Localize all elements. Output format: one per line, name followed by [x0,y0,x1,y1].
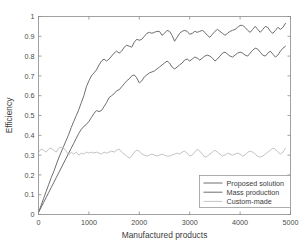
x-tick-label: 2000 [131,218,147,227]
y-tick-label: 0.4 [25,131,35,140]
y-tick-label: 0.5 [25,111,35,120]
y-tick-label: 0.6 [25,91,35,100]
legend-label-2: Custom-made [227,197,272,206]
y-axis-title: Efficiency [4,97,14,134]
y-tick-label: 0.3 [25,151,35,160]
x-axis-title: Manufactured products [122,230,208,240]
y-tick-label: 0.8 [25,52,35,61]
legend-label-0: Proposed solution [227,179,285,188]
x-tick-label: 0 [37,218,41,227]
y-tick-label: 0.7 [25,72,35,81]
x-tick-label: 3000 [182,218,198,227]
y-tick-label: 0.2 [25,171,35,180]
y-tick-label: 0.1 [25,190,35,199]
chart-legend: Proposed solutionMass productionCustom-m… [200,176,291,208]
y-tick-label: 0.9 [25,32,35,41]
y-tick-label: 1 [31,12,35,21]
legend-label-1: Mass production [227,188,280,197]
y-tick-label: 0 [31,210,35,219]
chart-plot-area: 01000200030004000500000.10.20.30.40.50.6… [0,0,308,251]
x-tick-label: 4000 [232,218,248,227]
x-tick-label: 5000 [283,218,299,227]
x-tick-label: 1000 [81,218,97,227]
chart-figure: 01000200030004000500000.10.20.30.40.50.6… [0,0,308,251]
series-line-2 [39,147,286,158]
axis-title-layer: Manufactured productsEfficiency [4,97,207,240]
